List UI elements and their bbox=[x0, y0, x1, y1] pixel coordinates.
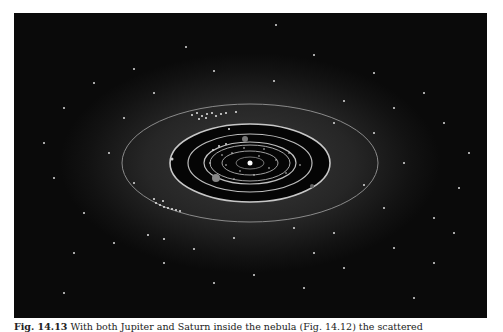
scattered-clump-lower bbox=[147, 198, 181, 240]
planet bbox=[212, 174, 220, 182]
central-star bbox=[248, 161, 253, 166]
planet bbox=[171, 158, 174, 161]
caption-text: With both Jupiter and Saturn inside the … bbox=[70, 321, 422, 332]
planet bbox=[310, 184, 314, 188]
caption-label: Fig. 14.13 bbox=[14, 321, 67, 332]
solar-system-figure bbox=[14, 13, 487, 318]
figure-caption: Fig. 14.13 With both Jupiter and Saturn … bbox=[14, 321, 494, 332]
orbit-diagram bbox=[14, 13, 487, 318]
planet bbox=[242, 136, 248, 142]
